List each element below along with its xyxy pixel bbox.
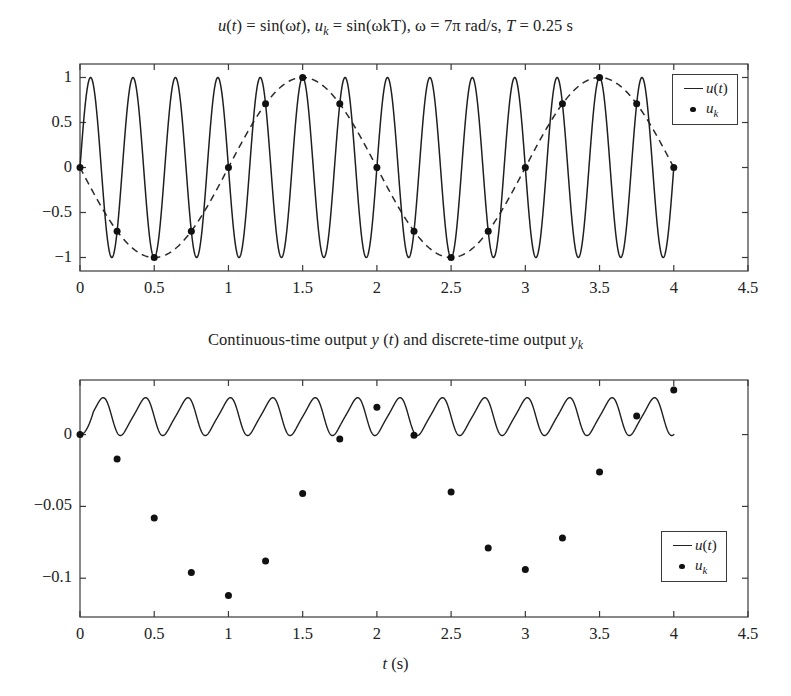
plot1-title-text: u(t) = sin(ωt), uk = sin(ωkT), ω = 7π ra… xyxy=(218,16,573,35)
plot2-legend-item-continuous: u(t) xyxy=(669,535,717,556)
x-tick-label: 4 xyxy=(644,624,704,644)
sample-point xyxy=(670,387,677,394)
sample-point xyxy=(299,490,306,497)
sample-point xyxy=(151,254,158,261)
x-tick-label: 3.5 xyxy=(570,278,630,298)
x-tick-label: 2.5 xyxy=(421,624,481,644)
line-marker-icon xyxy=(680,88,706,90)
x-tick-label: 0 xyxy=(50,278,110,298)
plot1-legend: u(t) uk xyxy=(672,74,738,125)
sample-point xyxy=(411,228,418,235)
sample-point xyxy=(188,228,195,235)
sample-point xyxy=(114,456,121,463)
x-tick-label: 1.5 xyxy=(273,624,333,644)
y-tick-label: 0.5 xyxy=(6,112,72,132)
plot2-x-axis-title-text: t (s) xyxy=(382,654,408,673)
plot2-legend-label-samples: uk xyxy=(695,557,707,577)
plot1-title: u(t) = sin(ωt), uk = sin(ωkT), ω = 7π ra… xyxy=(0,16,791,39)
sample-point xyxy=(77,164,84,171)
sample-point xyxy=(522,164,529,171)
sample-point xyxy=(114,228,121,235)
plot2-x-axis-title: t (s) xyxy=(0,654,791,674)
x-tick-label: 1 xyxy=(198,624,258,644)
line-marker-icon xyxy=(669,545,695,547)
plot1-legend-item-samples: uk xyxy=(680,99,728,120)
x-tick-label: 0.5 xyxy=(124,278,184,298)
plot2-legend: u(t) uk xyxy=(661,531,727,582)
x-tick-label: 4 xyxy=(644,278,704,298)
figure-root: u(t) = sin(ωt), uk = sin(ωkT), ω = 7π ra… xyxy=(0,0,791,696)
plot1-legend-label-samples: uk xyxy=(706,100,718,120)
plot1-canvas xyxy=(80,64,748,271)
y-tick-label: −0.5 xyxy=(6,202,72,222)
plot2-canvas xyxy=(80,380,748,617)
sample-point xyxy=(485,545,492,552)
sample-point xyxy=(262,557,269,564)
sample-point xyxy=(373,404,380,411)
plot2-legend-label-continuous: u(t) xyxy=(695,537,717,553)
plot2-frame xyxy=(80,380,748,617)
x-tick-label: 2 xyxy=(347,624,407,644)
plot2-legend-item-samples: uk xyxy=(669,556,717,577)
sample-point xyxy=(336,435,343,442)
dot-marker-icon xyxy=(669,564,695,570)
x-tick-label: 0.5 xyxy=(124,624,184,644)
x-tick-label: 1 xyxy=(198,278,258,298)
y-tick-label: −0.05 xyxy=(6,495,72,515)
plot1-axes xyxy=(80,64,748,271)
y-tick-label: 0 xyxy=(6,157,72,177)
sample-point xyxy=(448,254,455,261)
sample-point xyxy=(262,100,269,107)
sample-point xyxy=(596,468,603,475)
x-tick-label: 1.5 xyxy=(273,278,333,298)
plot2-title-text: Continuous-time output y (t) and discret… xyxy=(208,330,583,349)
x-tick-label: 3.5 xyxy=(570,624,630,644)
sample-point xyxy=(151,514,158,521)
sample-point xyxy=(485,228,492,235)
x-tick-label: 4.5 xyxy=(718,624,778,644)
sample-point xyxy=(188,569,195,576)
sample-point xyxy=(373,164,380,171)
page-caption-strip xyxy=(0,678,791,696)
plot1-legend-item-continuous: u(t) xyxy=(680,78,728,99)
sample-point xyxy=(448,489,455,496)
sample-point xyxy=(336,100,343,107)
x-tick-label: 2 xyxy=(347,278,407,298)
sample-point xyxy=(559,535,566,542)
dot-marker-icon xyxy=(680,107,706,113)
y-tick-label: −1 xyxy=(6,247,72,267)
sample-point xyxy=(77,431,84,438)
sample-point xyxy=(225,164,232,171)
sample-point xyxy=(522,566,529,573)
x-tick-label: 3 xyxy=(495,624,555,644)
y-tick-label: 0 xyxy=(6,424,72,444)
plot2-title: Continuous-time output y (t) and discret… xyxy=(0,330,791,353)
sample-point xyxy=(559,100,566,107)
plot1-legend-label-continuous: u(t) xyxy=(706,80,728,96)
x-tick-label: 2.5 xyxy=(421,278,481,298)
x-tick-label: 0 xyxy=(50,624,110,644)
sample-point xyxy=(633,100,640,107)
sample-point xyxy=(596,74,603,81)
y-tick-label: 1 xyxy=(6,67,72,87)
sample-point xyxy=(670,164,677,171)
x-tick-label: 3 xyxy=(495,278,555,298)
x-tick-label: 4.5 xyxy=(718,278,778,298)
sample-point xyxy=(411,432,418,439)
sample-point xyxy=(299,74,306,81)
y-tick-label: −0.1 xyxy=(6,567,72,587)
sample-point xyxy=(633,412,640,419)
plot2-axes xyxy=(80,380,748,617)
sample-point xyxy=(225,592,232,599)
